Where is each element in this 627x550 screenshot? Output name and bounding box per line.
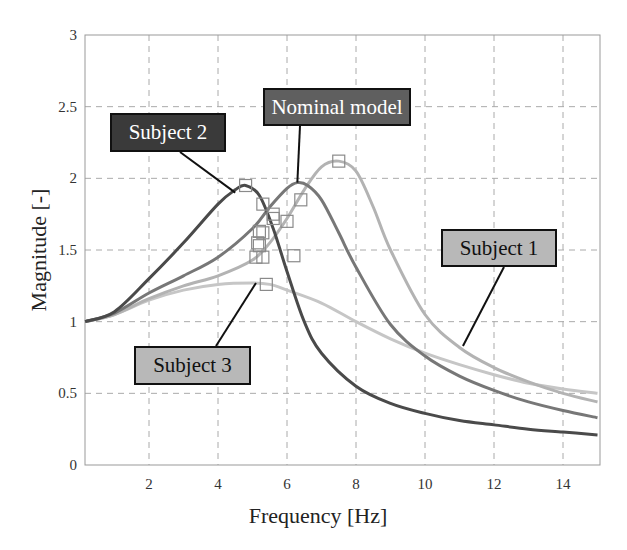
- square-marker: [288, 250, 300, 262]
- x-axis-label: Frequency [Hz]: [249, 503, 388, 528]
- x-tick-label: 14: [556, 476, 572, 492]
- y-tick-label: 3: [70, 27, 78, 43]
- x-tick-label: 8: [352, 476, 360, 492]
- annotation-nominal-model: Nominal model: [263, 88, 411, 126]
- frequency-response-chart: 2468101214 00.511.522.53 Frequency [Hz] …: [0, 0, 627, 550]
- square-markers: [240, 155, 345, 290]
- x-tick-label: 6: [283, 476, 291, 492]
- leader-line: [216, 283, 256, 346]
- y-tick-label: 2: [70, 170, 78, 186]
- annotation-subject-1: Subject 1: [441, 229, 557, 267]
- y-axis-label: Magnitude [-]: [26, 189, 51, 312]
- leader-line: [180, 152, 235, 193]
- y-tick-label: 1.5: [58, 242, 77, 258]
- y-tick-label: 1: [70, 314, 78, 330]
- y-tick-label: 0.5: [58, 385, 77, 401]
- y-tick-label: 0: [70, 457, 78, 473]
- x-axis-ticks: 2468101214: [145, 476, 571, 492]
- x-tick-label: 2: [145, 476, 153, 492]
- annotation-subject-3: Subject 3: [134, 346, 251, 385]
- leader-line: [297, 126, 300, 183]
- x-tick-label: 4: [214, 476, 222, 492]
- y-axis-ticks: 00.511.522.53: [58, 27, 77, 473]
- y-tick-label: 2.5: [58, 99, 77, 115]
- x-tick-label: 10: [418, 476, 433, 492]
- series-line-subject-2: [85, 185, 597, 435]
- x-tick-label: 12: [487, 476, 502, 492]
- annotation-subject-2: Subject 2: [110, 113, 226, 152]
- leader-line: [463, 267, 504, 346]
